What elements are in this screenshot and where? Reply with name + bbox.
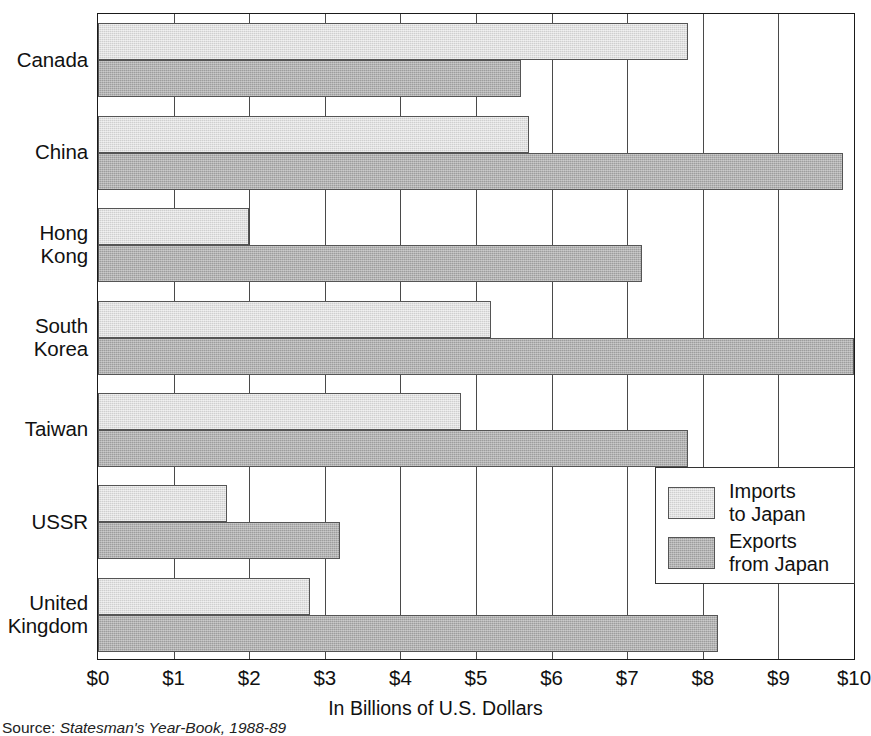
- source-title: Statesman's Year-Book, 1988-89: [60, 719, 286, 736]
- gridline: [552, 14, 553, 659]
- legend: Imports to Japan Exports from Japan: [655, 467, 855, 584]
- bar-exports: [98, 430, 688, 467]
- x-tick-8: $8: [691, 666, 714, 690]
- x-tick-7: $7: [616, 666, 639, 690]
- bar-imports: [98, 301, 491, 338]
- bar-imports: [98, 393, 461, 430]
- legend-entry-imports: Imports to Japan: [668, 480, 806, 526]
- legend-entry-exports: Exports from Japan: [668, 530, 829, 576]
- category-label-canada: Canada: [17, 48, 88, 71]
- x-tick-1: $1: [162, 666, 185, 690]
- bar-imports: [98, 485, 227, 522]
- x-tick-0: $0: [87, 666, 110, 690]
- bar-imports: [98, 208, 249, 245]
- legend-swatch-imports-icon: [668, 487, 715, 519]
- x-tick-6: $6: [540, 666, 563, 690]
- category-label-hong-kong: Hong Kong: [39, 221, 88, 267]
- x-tick-4: $4: [389, 666, 412, 690]
- legend-label-imports: Imports to Japan: [729, 480, 806, 526]
- bar-exports: [98, 245, 642, 282]
- x-tick-10: $10: [837, 666, 871, 690]
- bar-exports: [98, 615, 718, 652]
- bar-imports: [98, 23, 688, 60]
- x-tick-5: $5: [465, 666, 488, 690]
- category-label-taiwan: Taiwan: [25, 417, 88, 440]
- source-note: Source: Statesman's Year-Book, 1988-89: [2, 719, 286, 736]
- x-axis-title: In Billions of U.S. Dollars: [0, 697, 871, 720]
- category-label-united-kingdom: United Kingdom: [8, 591, 88, 637]
- category-label-china: China: [35, 140, 88, 163]
- x-tick-9: $9: [767, 666, 790, 690]
- bar-imports: [98, 578, 310, 615]
- x-tick-2: $2: [238, 666, 261, 690]
- bar-chart: CanadaChinaHong KongSouth KoreaTaiwanUSS…: [0, 0, 871, 736]
- category-label-south-korea: South Korea: [34, 314, 88, 360]
- bar-exports: [98, 60, 521, 97]
- bar-imports: [98, 116, 529, 153]
- x-tick-3: $3: [313, 666, 336, 690]
- category-label-ussr: USSR: [31, 510, 88, 533]
- gridline: [627, 14, 628, 659]
- bar-exports: [98, 153, 843, 190]
- bar-exports: [98, 522, 340, 559]
- legend-swatch-exports-icon: [668, 537, 715, 569]
- source-prefix: Source:: [2, 719, 60, 736]
- legend-label-exports: Exports from Japan: [729, 530, 829, 576]
- bar-exports: [98, 338, 854, 375]
